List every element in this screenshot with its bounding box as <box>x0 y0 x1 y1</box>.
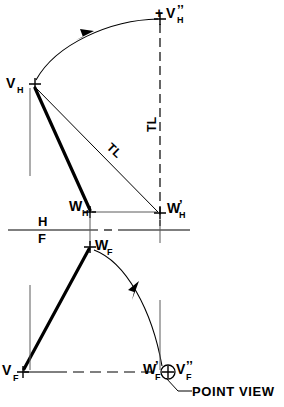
label-w-f: W F <box>95 237 113 257</box>
label-v-h: V H <box>6 75 24 95</box>
label-w-h-aux-prime: ’ <box>179 197 183 212</box>
label-tl-diagonal-text: TL <box>104 140 125 161</box>
label-w-f-aux-sub: F <box>155 372 161 382</box>
descriptive-geometry-figure: V H + V H ’’ TL TL W H W H ’ H <box>0 0 284 407</box>
edge-vh-wh-bold <box>35 88 90 210</box>
label-v-h-aux-base: V <box>166 5 176 21</box>
edge-vh-whaux-truelength <box>35 87 158 212</box>
label-tl-diagonal: TL <box>104 140 125 161</box>
label-v-h-sub: H <box>17 85 24 95</box>
label-fold-f: F <box>38 231 46 246</box>
label-fold-h: H <box>38 214 47 229</box>
label-v-f-base: V <box>2 362 12 378</box>
label-v-h-aux-prime: ’’ <box>177 2 184 17</box>
label-v-f-aux-prime: ’’ <box>186 358 193 373</box>
label-v-f-aux-base: V <box>176 361 186 377</box>
label-v-h-aux-plus: + <box>155 5 163 21</box>
rotation-arc-top <box>36 19 158 80</box>
point-marks-top <box>29 13 166 219</box>
label-point-view: POINT VIEW <box>192 384 275 399</box>
label-v-f-aux: V F ’’ <box>176 358 193 382</box>
label-w-h-base: W <box>69 198 83 214</box>
label-tl-vertical-text: TL <box>145 116 159 132</box>
edge-wf-vf-bold <box>24 249 89 369</box>
rotation-arc-bottom-arrowhead <box>128 281 139 300</box>
label-v-f-sub: F <box>13 373 19 383</box>
label-w-f-aux: W F ’ <box>143 358 161 382</box>
label-w-f-aux-prime: ’ <box>155 358 159 373</box>
label-w-h-aux: W H ’ <box>167 197 186 220</box>
label-tl-vertical: TL <box>145 116 159 132</box>
label-v-h-base: V <box>6 75 16 91</box>
label-w-h-sub: H <box>82 208 89 218</box>
label-w-f-sub: F <box>107 247 113 257</box>
rotation-arc-bottom <box>94 250 162 366</box>
point-marks-bottom <box>17 241 174 378</box>
label-v-f: V F <box>2 362 19 383</box>
construction-drawing-canvas: V H + V H ’’ TL TL W H W H ’ H <box>0 0 284 407</box>
label-v-f-aux-sub: F <box>186 372 192 382</box>
